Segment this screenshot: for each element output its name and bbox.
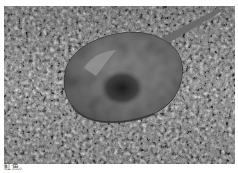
stingray-photo [4, 6, 235, 164]
figure-caption: 魟魚。 [4, 163, 27, 172]
photo-graphic [4, 6, 235, 164]
